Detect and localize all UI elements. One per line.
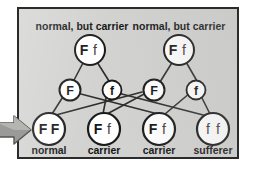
edge-parent-right-to-F xyxy=(160,61,173,82)
edge-parent-left-to-f xyxy=(97,62,109,81)
edge-parent-right-to-f xyxy=(186,62,197,81)
offspring-3-allele-recessive: f xyxy=(162,121,166,137)
gamete-1-allele: F xyxy=(66,84,74,98)
offspring-4-allele-dominant: f xyxy=(206,121,210,137)
inheritance-diagram-panel: normal, but carrier normal, but carrier … xyxy=(17,7,239,159)
caption-offspring-3: carrier xyxy=(143,144,176,156)
gamete-node-2[interactable]: f xyxy=(103,81,122,100)
offspring-2-allele-dominant: F xyxy=(94,121,103,137)
parent-left-allele-recessive: f xyxy=(93,42,97,58)
offspring-3-allele-dominant: F xyxy=(149,121,158,137)
caption-offspring-4: sufferer xyxy=(193,144,232,156)
parent-left-allele-dominant: F xyxy=(80,42,89,58)
offspring-4-circle[interactable] xyxy=(197,113,229,145)
gamete-3-allele: F xyxy=(150,84,158,98)
screenshot-stage: normal, but carrier normal, but carrier … xyxy=(0,0,254,170)
offspring-1-allele-recessive: F xyxy=(51,121,60,137)
offspring-node-2[interactable]: F f xyxy=(88,113,120,145)
edge-parent-left-to-F xyxy=(73,61,84,82)
parent-node-right[interactable]: F f xyxy=(164,35,194,65)
parent-right-allele-recessive: f xyxy=(182,42,186,58)
genetic-cross-diagram: normal, but carrier normal, but carrier … xyxy=(19,9,237,157)
parent-right-allele-dominant: F xyxy=(169,42,178,58)
gamete-node-1[interactable]: F xyxy=(60,80,81,101)
arrow-right-icon xyxy=(0,114,32,146)
caption-offspring-2: carrier xyxy=(88,144,121,156)
parent-label-left: normal, but carrier xyxy=(36,20,129,32)
offspring-node-3[interactable]: F f xyxy=(143,113,175,145)
offspring-1-allele-dominant: F xyxy=(39,121,48,137)
parent-node-left[interactable]: F f xyxy=(75,35,105,65)
gamete-node-3[interactable]: F xyxy=(144,80,165,101)
caption-offspring-1: normal xyxy=(31,144,66,156)
offspring-2-allele-recessive: f xyxy=(107,121,111,137)
offspring-4-allele-recessive: f xyxy=(216,121,220,137)
parent-label-right: normal, but carrier xyxy=(133,20,226,32)
offspring-node-4[interactable]: f f xyxy=(197,113,229,145)
gamete-node-4[interactable]: f xyxy=(187,81,206,100)
offspring-node-1[interactable]: F F xyxy=(33,113,65,145)
